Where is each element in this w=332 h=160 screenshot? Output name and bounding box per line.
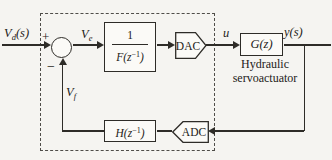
plant-block: G(z) xyxy=(240,33,283,56)
arrow-right-icon xyxy=(168,41,175,49)
input-base: V xyxy=(4,26,12,40)
adc-to-sensor-line xyxy=(157,130,172,131)
sensor-label: H(z−1) xyxy=(105,121,155,143)
plant-caption-line2: servoactuator xyxy=(217,71,313,85)
feedback-sub: f xyxy=(74,91,76,101)
output-signal-line xyxy=(284,44,331,45)
plant-caption: Hydraulic servoactuator xyxy=(217,57,313,85)
den-end: ) xyxy=(140,51,144,63)
plant-caption-line1: Hydraulic xyxy=(217,57,313,71)
input-args: (s) xyxy=(16,26,29,40)
feedback-vertical-line xyxy=(62,60,63,131)
error-base: V xyxy=(81,27,89,41)
sensor-block: H(z−1) xyxy=(104,120,156,142)
den-exponent: −1 xyxy=(131,50,140,59)
sensor-exponent: −1 xyxy=(132,126,141,135)
arrow-right-icon xyxy=(233,41,240,49)
error-signal-line xyxy=(73,44,97,45)
input-signal-line xyxy=(2,44,45,45)
fraction-bar xyxy=(112,44,148,45)
minus-sign-label: − xyxy=(47,61,55,73)
error-sub: e xyxy=(89,33,93,43)
error-signal-label: Ve xyxy=(81,28,92,44)
sensor-end: ) xyxy=(141,127,145,139)
den-main: F(z xyxy=(116,51,131,63)
arrow-left-icon xyxy=(208,127,215,135)
block-diagram-figure: Vd(s) + − Ve 1 F(z−1) DAC u G(z) Hydraul… xyxy=(0,0,332,160)
summing-junction xyxy=(51,37,72,58)
filter-to-dac-line xyxy=(157,44,168,45)
adc-label: ADC xyxy=(182,126,207,138)
plus-sign-label: + xyxy=(42,31,49,43)
control-signal-label: u xyxy=(223,27,229,39)
feedback-line-right xyxy=(215,130,304,131)
dac-block: DAC xyxy=(175,32,207,59)
feedback-base: V xyxy=(66,85,74,99)
sensor-main: H(z xyxy=(116,127,133,139)
filter-fraction: 1 F(z−1) xyxy=(105,23,155,64)
filter-denominator: F(z−1) xyxy=(105,48,155,64)
filter-numerator: 1 xyxy=(105,29,155,41)
feedback-line-left xyxy=(62,130,104,131)
arrow-right-icon xyxy=(97,41,104,49)
filter-block: 1 F(z−1) xyxy=(104,22,156,72)
adc-block: ADC xyxy=(172,121,209,143)
dac-label: DAC xyxy=(176,40,201,52)
plant-label: G(z) xyxy=(241,34,282,55)
feedback-branch-line xyxy=(304,44,305,131)
input-signal-label: Vd(s) xyxy=(4,27,29,43)
output-signal-label: y(s) xyxy=(284,26,303,38)
dac-to-plant-line xyxy=(206,44,233,45)
arrow-up-icon xyxy=(59,58,67,65)
feedback-signal-label: Vf xyxy=(66,86,76,102)
